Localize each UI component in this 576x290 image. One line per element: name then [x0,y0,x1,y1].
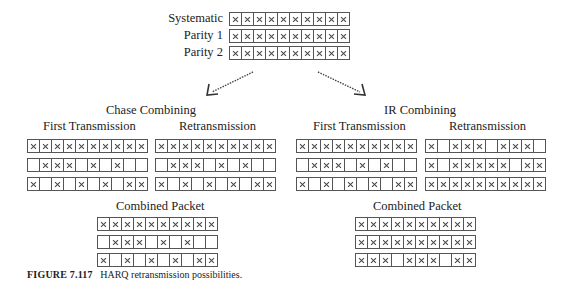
bit-cell-x [158,218,170,230]
bit-cell-x [405,140,416,152]
bit-cell-x [534,159,545,171]
bit-cell-x [522,178,534,190]
bit-cell-x [474,178,486,190]
bit-cell-x [297,178,309,190]
bit-cell-x [440,218,452,230]
ir-first-transmission-label: First Transmission [313,119,406,134]
bit-cell-x [498,140,510,152]
bit-cell-x [393,140,405,152]
bit-cell-x [88,159,100,171]
bit-cell-empty [88,178,100,190]
packet-row [425,177,546,191]
bit-cell-x [357,159,369,171]
ir-first-grid [296,139,417,191]
bit-cell-x [146,254,158,266]
packet-row [155,177,276,191]
bit-cell-empty [534,140,545,152]
ir-retx-grid [425,139,546,191]
bit-cell-x [428,218,440,230]
bit-cell-x [136,140,147,152]
bit-cell-x [122,218,134,230]
ir-combined-label: Combined Packet [373,199,462,214]
bit-cell-empty [333,178,345,190]
bit-cell-x [393,178,405,190]
bit-cell-x [321,178,333,190]
packet-row [296,177,417,191]
bit-cell-x [252,140,264,152]
bit-cell-x [426,178,438,190]
bit-cell-x [404,218,416,230]
bit-cell-x [146,218,158,230]
bit-cell-empty [136,159,147,171]
bit-cell-x [333,159,345,171]
bit-cell-x [180,140,192,152]
bit-cell-x [52,159,64,171]
bit-cell-empty [64,178,76,190]
packet-row [355,217,476,231]
bit-cell-x [510,178,522,190]
ir-combining-title: IR Combining [384,103,456,118]
bit-cell-x [134,236,146,248]
bit-cell-x [357,140,369,152]
bit-cell-empty [216,178,228,190]
bit-cell-x [180,159,192,171]
packet-row [27,158,148,172]
bit-cell-x [100,178,112,190]
bit-cell-empty [100,159,112,171]
bit-cell-x [134,218,146,230]
bit-cell-x [158,236,170,248]
bit-cell-x [264,140,275,152]
bit-cell-x [122,236,134,248]
bit-cell-x [182,236,194,248]
bit-cell-empty [252,159,264,171]
bit-cell-x [522,140,534,152]
bit-cell-empty [170,236,182,248]
bit-cell-x [297,140,309,152]
bit-cell-empty [357,178,369,190]
bit-cell-empty [206,236,217,248]
bit-cell-x [452,254,464,266]
bit-cell-x [321,159,333,171]
bit-cell-x [498,159,510,171]
bit-cell-x [404,236,416,248]
bit-cell-empty [124,159,136,171]
bit-cell-x [170,254,182,266]
bit-cell-x [264,178,275,190]
bit-cell-x [136,178,147,190]
bit-cell-x [534,178,545,190]
bit-cell-x [440,236,452,248]
bit-cell-x [168,140,180,152]
bit-cell-x [321,140,333,152]
bit-cell-x [228,178,240,190]
bit-cell-x [206,218,217,230]
bit-cell-x [356,218,368,230]
packet-row [155,139,276,153]
bit-cell-x [498,178,510,190]
bit-cell-x [510,140,522,152]
bit-cell-x [40,140,52,152]
bit-cell-x [369,178,381,190]
bit-cell-x [474,159,486,171]
bit-cell-x [40,159,52,171]
bit-cell-x [452,236,464,248]
bit-cell-x [76,178,88,190]
bit-cell-x [204,178,216,190]
bit-cell-empty [440,254,452,266]
bit-cell-x [156,140,168,152]
packet-row [27,139,148,153]
chase-combined-label: Combined Packet [116,199,205,214]
chase-retx-grid [155,139,276,191]
bit-cell-x [76,140,88,152]
bit-cell-x [216,140,228,152]
bit-cell-empty [194,236,206,248]
packet-row [355,235,476,249]
packet-row [97,217,218,231]
bit-cell-empty [297,159,309,171]
bit-cell-x [380,218,392,230]
bit-cell-x [345,178,357,190]
bit-cell-empty [345,159,357,171]
bit-cell-x [192,140,204,152]
bit-cell-x [450,159,462,171]
bit-cell-x [194,254,206,266]
bit-cell-empty [110,254,122,266]
